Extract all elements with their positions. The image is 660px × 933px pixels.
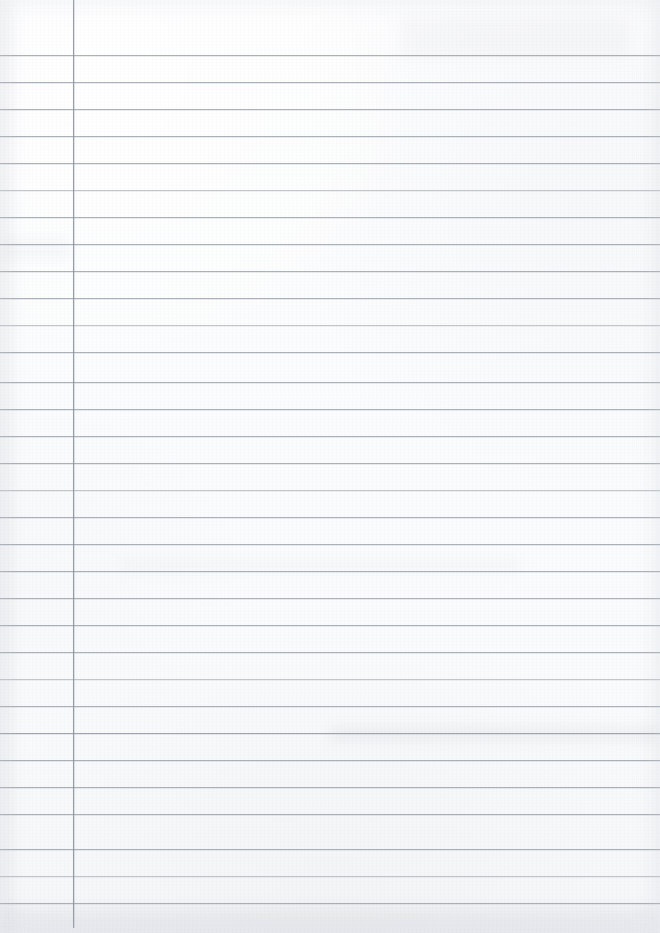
writing-area[interactable]	[74, 0, 660, 933]
notebook-page	[0, 0, 660, 933]
scan-smudge	[0, 0, 14, 933]
scan-smudge	[0, 238, 70, 260]
